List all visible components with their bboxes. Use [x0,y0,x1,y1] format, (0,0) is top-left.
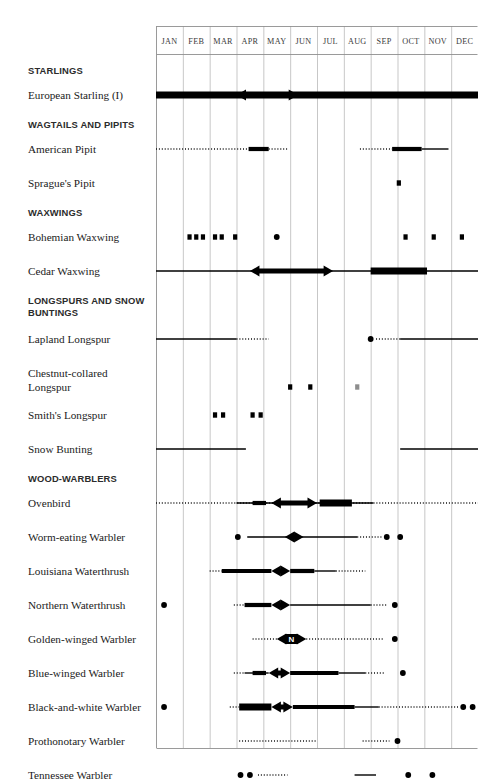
record-dot [429,772,435,778]
migration-arrow-left [277,634,287,645]
species-track [161,702,475,713]
migration-arrow-right [281,600,291,611]
record-square [308,384,312,389]
migration-arrow-right [297,634,307,645]
record-square [355,384,359,389]
nesting-indicator: N [289,635,295,644]
species-track [234,668,406,679]
species-label: Northern Waterthrush [28,599,126,611]
record-square [233,234,237,239]
record-square [259,412,263,417]
species-track [397,180,401,185]
species-track: N [253,634,398,645]
species-track [156,336,478,342]
record-square [251,412,255,417]
migration-arrow-left [271,566,281,577]
species-label: Lapland Longspur [28,333,111,345]
migration-arrow-right [324,266,334,277]
record-dot [368,336,374,342]
group-heading: WAGTAILS AND PIPITS [28,119,135,130]
record-dot [460,704,466,710]
species-track [239,738,400,744]
record-square [187,234,191,239]
record-square [432,234,436,239]
record-square [213,234,217,239]
migration-arrow-right [281,566,291,577]
species-label: Louisiana Waterthrush [28,565,130,577]
species-label: American Pipit [28,143,97,155]
month-header-nov: NOV [428,37,447,46]
migration-arrow-left [237,90,247,101]
migration-arrow-left [271,498,281,509]
month-header-jun: JUN [296,37,312,46]
record-dot [395,738,401,744]
species-track [156,266,478,277]
species-track [288,384,359,389]
species-track [213,412,263,417]
record-dot [397,534,403,540]
species-label: European Starling (I) [28,89,123,102]
month-grid [157,26,478,749]
month-header-jan: JAN [161,37,177,46]
record-square [221,412,225,417]
group-heading: BUNTINGS [28,307,78,318]
species-track [187,234,464,240]
species-label: Snow Bunting [28,443,93,455]
group-heading: STARLINGS [28,65,83,76]
species-track [156,498,478,509]
migration-arrow-right [308,498,318,509]
species-label: Black-and-white Warbler [28,701,141,713]
record-dot [392,636,398,642]
row-labels: STARLINGSEuropean Starling (I)WAGTAILS A… [28,65,144,779]
record-dot [392,602,398,608]
month-header-apr: APR [242,37,259,46]
species-label: Sprague's Pipit [28,177,96,189]
group-heading: LONGSPURS AND SNOW [28,295,144,306]
species-label: Blue-winged Warbler [28,667,124,679]
migration-arrow-right [289,90,299,101]
species-track [235,532,403,543]
migration-arrow-left [271,702,281,713]
record-dot [405,772,411,778]
group-heading: WOOD-WARBLERS [28,473,117,484]
migration-arrow-right [283,702,293,713]
record-dot [161,602,167,608]
species-track [156,90,478,101]
record-dot [161,704,167,710]
species-label: Bohemian Waxwing [28,231,120,243]
migration-arrow-left [250,266,259,277]
species-track [210,566,366,577]
record-square [403,234,407,239]
record-dot [384,534,390,540]
month-header-jul: JUL [323,37,338,46]
group-heading: WAXWINGS [28,207,82,218]
month-header-dec: DEC [456,37,474,46]
species-track [238,772,436,778]
record-dot [238,772,244,778]
record-dot [470,704,476,710]
month-header-may: MAY [267,37,286,46]
migration-arrow-left [269,668,279,679]
record-square [288,384,292,389]
species-label: Worm-eating Warbler [28,531,125,543]
record-square [460,234,464,239]
species-label: Cedar Waxwing [28,265,100,277]
record-dot [274,234,280,240]
migration-arrow-right [294,532,304,543]
month-header-feb: FEB [188,37,204,46]
species-label: Golden-winged Warbler [28,633,136,645]
species-label: Ovenbird [28,497,71,509]
occurrence-chart: JANFEBMARAPRMAYJUNJULAUGSEPOCTNOVDECSTAR… [0,0,478,779]
species-label: Longspur [28,381,71,393]
month-header-sep: SEP [377,37,392,46]
record-square [201,234,205,239]
occurrence-marks: N [153,90,478,779]
species-label: Chestnut-collared [28,367,108,379]
record-square [194,234,198,239]
record-square [397,180,401,185]
migration-arrow-left [285,532,295,543]
month-header-aug: AUG [348,37,367,46]
species-label: Prothonotary Warbler [28,735,125,747]
migration-arrow-left [271,600,281,611]
record-square [220,234,224,239]
